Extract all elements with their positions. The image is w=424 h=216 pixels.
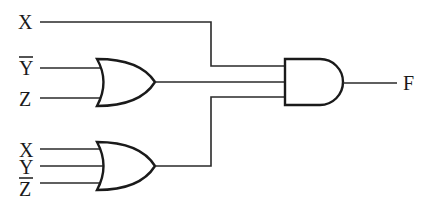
logic-circuit: X Y Z X Y Z F (0, 0, 424, 216)
input-label-x-top: X (18, 11, 33, 33)
wire-or2-to-and (155, 97, 285, 166)
input-label-z: Z (19, 88, 31, 110)
output-label-f: F (403, 72, 414, 94)
input-label-z-bar: Z (19, 178, 31, 200)
or-gate-2 (97, 142, 155, 190)
and-gate (285, 59, 343, 105)
input-label-y: Y (19, 156, 33, 178)
input-label-y-bar: Y (19, 57, 33, 79)
wire-x-to-and (40, 22, 285, 66)
or-gate-1 (97, 59, 155, 106)
